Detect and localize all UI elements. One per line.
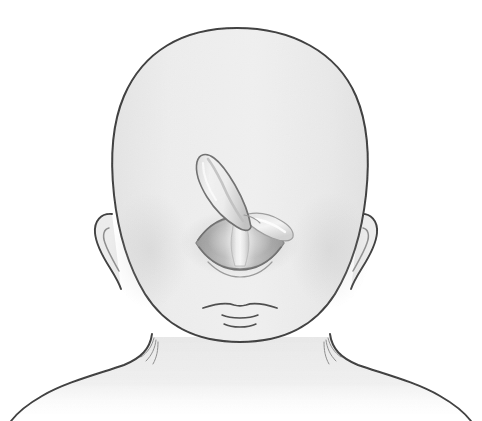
figure-root: Cyclopia with supraorbital proboscis inf… <box>0 0 482 421</box>
head <box>110 28 370 342</box>
medical-illustration <box>0 0 482 421</box>
cheek-shadow-right <box>290 192 370 308</box>
cheek-shadow-left <box>110 192 190 308</box>
